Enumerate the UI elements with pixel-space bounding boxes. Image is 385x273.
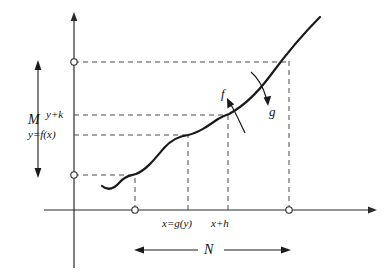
y-axis-arrowhead bbox=[71, 12, 78, 21]
function-inverse-diagram: M N f g y+k y=f(x) x=g(y) x+h bbox=[0, 0, 385, 273]
marker-y-lower bbox=[71, 172, 77, 178]
measure-N-label: N bbox=[204, 243, 213, 257]
diagram-canvas bbox=[0, 0, 385, 273]
x-axis-tick-label-x-plus-h: x+h bbox=[211, 218, 229, 229]
measure-N-arrowhead-right bbox=[281, 247, 291, 254]
y-axis-tick-label-y-equals-fx: y=f(x) bbox=[28, 129, 56, 140]
measure-M-arrowhead-top bbox=[35, 60, 42, 70]
x-axis-tick-label-x-equals-gy: x=g(y) bbox=[162, 218, 192, 229]
marker-x-left bbox=[132, 207, 138, 213]
y-axis-tick-label-y-plus-k: y+k bbox=[46, 109, 63, 120]
f-arrowhead bbox=[227, 98, 234, 109]
axes-group bbox=[44, 12, 377, 268]
measure-M-arrowhead-bottom bbox=[35, 168, 42, 178]
marker-y-upper bbox=[71, 59, 77, 65]
f-label: f bbox=[221, 87, 225, 100]
marker-x-right bbox=[286, 207, 292, 213]
x-axis-arrowhead bbox=[368, 207, 377, 214]
f-direction-arrow bbox=[227, 98, 245, 133]
measure-M-label: M bbox=[28, 113, 40, 127]
measure-N-arrowhead-left bbox=[134, 247, 144, 254]
function-curve bbox=[102, 17, 320, 189]
g-label: g bbox=[269, 105, 276, 118]
